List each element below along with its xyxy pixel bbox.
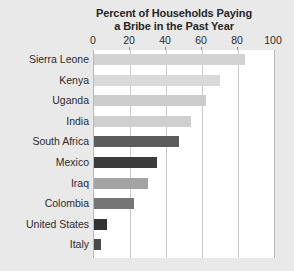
- category-label-uganda: Uganda: [0, 95, 89, 106]
- category-label-united-states: United States: [0, 219, 89, 230]
- bar-row: [94, 239, 274, 250]
- chart-title-line-2: a Bribe in the Past Year: [60, 20, 288, 33]
- category-label-sierra-leone: Sierra Leone: [0, 54, 89, 65]
- category-label-iraq: Iraq: [0, 178, 89, 189]
- bar-row: [94, 219, 274, 230]
- category-axis-labels: Sierra LeoneKenyaUgandaIndiaSouth Africa…: [0, 50, 89, 258]
- category-label-india: India: [0, 116, 89, 127]
- category-label-south-africa: South Africa: [0, 136, 89, 147]
- category-label-colombia: Colombia: [0, 198, 89, 209]
- chart-title: Percent of Households Paying a Bribe in …: [60, 7, 288, 33]
- x-tick-label-100: 100: [264, 34, 282, 46]
- bar-india: [94, 116, 191, 127]
- category-label-mexico: Mexico: [0, 157, 89, 168]
- bar-italy: [94, 239, 101, 250]
- bar-uganda: [94, 95, 206, 106]
- bar-row: [94, 75, 274, 86]
- x-tick-label-60: 60: [195, 34, 207, 46]
- bar-sierra-leone: [94, 54, 245, 65]
- bar-south-africa: [94, 136, 179, 147]
- bar-kenya: [94, 75, 220, 86]
- bar-row: [94, 116, 274, 127]
- bar-row: [94, 178, 274, 189]
- bar-chart-figure: Percent of Households Paying a Bribe in …: [0, 0, 294, 271]
- x-tick-label-0: 0: [90, 34, 96, 46]
- chart-title-line-1: Percent of Households Paying: [60, 7, 288, 20]
- bar-row: [94, 95, 274, 106]
- bar-colombia: [94, 198, 134, 209]
- x-tick-label-40: 40: [159, 34, 171, 46]
- bar-iraq: [94, 178, 148, 189]
- bar-row: [94, 198, 274, 209]
- bar-row: [94, 54, 274, 65]
- bar-united-states: [94, 219, 107, 230]
- bars-layer: [94, 50, 274, 258]
- x-axis-tick-labels: 020406080100: [0, 34, 294, 48]
- plot-area: [93, 50, 275, 258]
- bar-row: [94, 157, 274, 168]
- category-label-kenya: Kenya: [0, 75, 89, 86]
- bar-row: [94, 136, 274, 147]
- x-tick-label-20: 20: [123, 34, 135, 46]
- x-tick-label-80: 80: [231, 34, 243, 46]
- bar-mexico: [94, 157, 157, 168]
- category-label-italy: Italy: [0, 239, 89, 250]
